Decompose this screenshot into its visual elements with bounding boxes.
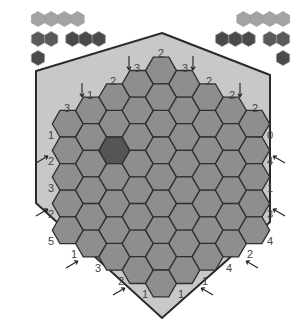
edge-clue-label: 4 [226,262,232,274]
palette-hex-light[interactable] [250,11,263,26]
edge-clue-label: 3 [267,208,273,220]
edge-clue-label: 1 [142,288,148,300]
palette-hex-light[interactable] [263,11,276,26]
edge-clue-label: 0 [267,129,273,141]
palette-hex-dark[interactable] [242,31,255,46]
palette-hex-dark[interactable] [31,50,44,65]
palette-hex-dark[interactable] [66,31,79,46]
edge-clue-label: 3 [48,182,54,194]
game-canvas: 233221232102431235412342111 [0,0,296,327]
edge-clue-label: 1 [71,248,77,260]
edge-clue-label: 1 [87,89,93,101]
arrow-icon [66,261,78,268]
edge-clue-label: 2 [206,75,212,87]
palette-hex-mid[interactable] [276,31,289,46]
palette-hex-mid[interactable] [263,31,276,46]
palette-hex-light[interactable] [31,11,44,26]
edge-clue-label: 3 [95,262,101,274]
edge-clue-label: 3 [134,62,140,74]
arrow-icon [201,288,213,295]
edge-clue-label: 4 [267,235,273,247]
edge-clue-label: 2 [48,208,54,220]
edge-clue-label: 1 [267,182,273,194]
palette-hex-dark[interactable] [229,31,242,46]
arrow-icon [273,209,285,216]
edge-clue-label: 2 [110,75,116,87]
edge-clue-label: 1 [178,288,184,300]
edge-clue-label: 1 [202,275,208,287]
palette-hex-dark[interactable] [216,31,229,46]
edge-clue-label: 2 [118,275,124,287]
palette-hex-light[interactable] [237,11,250,26]
arrow-icon [273,156,285,163]
palette-hex-light[interactable] [58,11,71,26]
palette-hex-light[interactable] [71,11,84,26]
palette-hex-dark[interactable] [276,50,289,65]
palette-hex-light[interactable] [45,11,58,26]
arrow-icon [113,288,125,295]
palette-hex-dark[interactable] [79,31,92,46]
edge-clue-label: 2 [252,102,258,114]
edge-clue-label: 2 [247,248,253,260]
edge-clue-label: 3 [182,62,188,74]
palette-hex-dark[interactable] [92,31,105,46]
edge-clue-label: 2 [229,89,235,101]
palette-hex-light[interactable] [276,11,289,26]
edge-clue-label: 5 [48,235,54,247]
arrow-icon [36,209,48,216]
edge-clue-label: 4 [267,155,273,167]
edge-clue-label: 2 [158,47,164,59]
arrow-icon [246,261,258,268]
edge-clue-label: 1 [48,129,54,141]
palette-hex-mid[interactable] [45,31,58,46]
edge-clue-label: 3 [64,102,70,114]
edge-clue-label: 2 [48,155,54,167]
palette-hex-mid[interactable] [31,31,44,46]
